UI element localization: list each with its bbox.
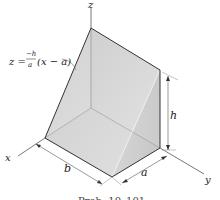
arrowhead	[166, 145, 170, 150]
arrowhead	[166, 76, 170, 81]
extension-line	[162, 72, 178, 80]
equation-numerator: −h	[26, 50, 36, 58]
equation-rhs: (x − a)	[37, 56, 71, 67]
dimension-label-b: b	[64, 162, 71, 175]
x-axis-label: x	[5, 152, 11, 163]
z-axis-label: z	[87, 0, 94, 10]
extension-line	[112, 177, 121, 185]
extension-line	[100, 177, 112, 186]
y-axis-label: y	[204, 174, 211, 185]
arrowhead	[97, 180, 102, 184]
arrowhead	[36, 144, 41, 148]
wedge-diagram: z x y b a h z = −h a (x − a) Prob. 10–10…	[0, 0, 220, 200]
y-axis	[160, 148, 204, 174]
figure-caption: Prob. 10–101	[78, 195, 145, 200]
equation-lhs: z =	[8, 56, 26, 67]
dimension-label-a: a	[141, 166, 148, 179]
equation-denominator: a	[28, 61, 32, 69]
dimension-label-h: h	[170, 109, 177, 122]
